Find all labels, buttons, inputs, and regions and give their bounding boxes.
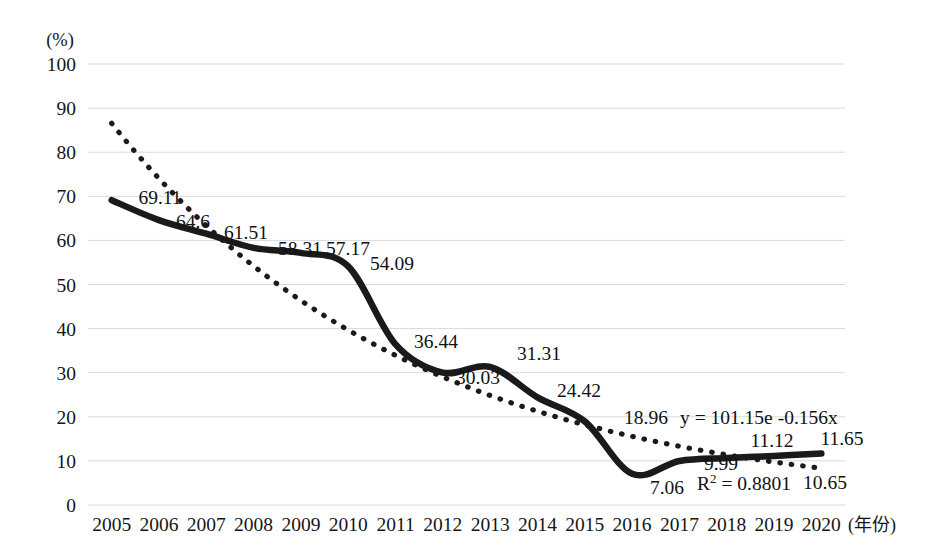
data-point-label: 36.44 (414, 331, 458, 352)
x-axis-tick-label: 2014 (518, 514, 557, 535)
x-axis-tick-label: 2015 (565, 514, 604, 535)
x-axis-tick-label: 2009 (281, 514, 320, 535)
y-axis-tick-label: 70 (57, 186, 77, 207)
data-point-label: 31.31 (517, 343, 561, 364)
trendline-equation-label: y = 101.15e -0.156x (680, 407, 838, 428)
y-axis-tick-label: 30 (57, 363, 77, 384)
y-axis-tick-label: 60 (57, 230, 77, 251)
chart-background (0, 0, 933, 553)
x-axis-tick-label: 2006 (139, 514, 178, 535)
chart-container: 1009080706050403020100 20052006200720082… (0, 0, 933, 553)
data-point-label: 7.06 (650, 477, 684, 498)
y-axis-tick-label: 50 (57, 275, 77, 296)
x-axis-tick-label: 2016 (613, 514, 652, 535)
x-axis-tick-label: 2005 (92, 514, 131, 535)
data-point-label: 54.09 (370, 253, 414, 274)
y-axis-tick-label: 10 (57, 451, 77, 472)
data-point-label: 30.03 (456, 367, 500, 388)
x-axis-tick-label: 2012 (423, 514, 462, 535)
x-axis-tick-label: 2013 (471, 514, 510, 535)
x-axis-tick-label: 2018 (707, 514, 746, 535)
y-axis-tick-label: 0 (66, 495, 76, 516)
data-point-label: 57.17 (326, 238, 370, 259)
data-point-label: 18.96 (624, 407, 668, 428)
data-point-label: 11.65 (820, 428, 863, 449)
x-axis-name-label: (年份) (848, 515, 896, 536)
data-point-label: 58.31 (278, 238, 322, 259)
x-axis-tick-label: 2010 (329, 514, 368, 535)
x-axis-tick-label: 2017 (660, 514, 699, 535)
data-point-label: 11.12 (750, 430, 793, 451)
data-point-label: 64.6 (176, 211, 210, 232)
data-point-label: 24.42 (557, 380, 601, 401)
exponential-decline-line-chart: 1009080706050403020100 20052006200720082… (0, 0, 933, 553)
y-axis-tick-label: 100 (47, 54, 76, 75)
x-axis-tick-label: 2019 (755, 514, 794, 535)
y-axis-tick-label: 80 (57, 142, 77, 163)
y-axis-tick-label: 90 (57, 98, 77, 119)
x-axis-tick-label: 2007 (187, 514, 226, 535)
x-axis-tick-label: 2011 (376, 514, 414, 535)
y-axis-unit-label: (%) (46, 30, 74, 51)
data-point-label: 69.11 (138, 187, 181, 208)
data-point-label: 10.65 (803, 472, 847, 493)
y-axis-tick-label: 20 (57, 407, 77, 428)
x-axis-tick-label: 2008 (234, 514, 273, 535)
x-axis-tick-label: 2020 (802, 514, 841, 535)
data-point-label: 61.51 (224, 222, 268, 243)
y-axis-tick-label: 40 (57, 319, 77, 340)
